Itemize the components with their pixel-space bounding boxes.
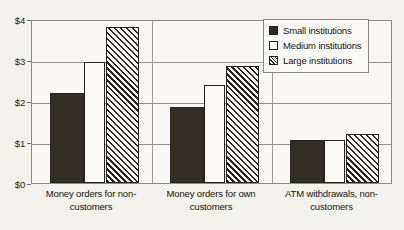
diagonal-hatch-swatch-icon	[269, 56, 278, 65]
bar-medium-group-2	[204, 85, 225, 183]
legend-label-small: Small institutions	[283, 25, 352, 36]
x-category-1-line1: Money orders for non-	[31, 188, 151, 201]
legend-item-small: Small institutions	[269, 23, 361, 38]
legend-item-medium: Medium institutions	[269, 38, 361, 53]
bar-small-group-2	[170, 107, 204, 183]
legend-label-medium: Medium institutions	[283, 40, 361, 51]
plot-area: Small institutions Medium institutions L…	[31, 20, 392, 184]
y-tick-label-2: $2	[15, 97, 25, 108]
x-category-3-line1: ATM withdrawals, non-	[271, 188, 392, 201]
bar-small-group-3	[290, 140, 324, 183]
x-category-2-line1: Money orders for own	[151, 188, 271, 201]
y-tick-label-4: $4	[15, 15, 25, 26]
bar-small-group-1	[50, 93, 84, 183]
x-category-2-line2: customers	[151, 201, 271, 214]
solid-dark-swatch-icon	[269, 26, 278, 35]
chart-legend: Small institutions Medium institutions L…	[263, 19, 369, 73]
bar-medium-group-3	[324, 140, 345, 183]
legend-item-large: Large institutions	[269, 53, 361, 68]
y-tick-mark-0	[27, 184, 31, 185]
white-outline-swatch-icon	[269, 41, 278, 50]
y-tick-label-1: $1	[15, 138, 25, 149]
x-category-1-line2: customers	[31, 201, 151, 214]
x-category-3: ATM withdrawals, non- customers	[271, 188, 392, 213]
y-axis: $4 $3 $2 $1 $0	[0, 0, 31, 230]
bar-chart: $4 $3 $2 $1 $0	[0, 0, 404, 230]
bar-medium-group-1	[84, 62, 105, 183]
x-category-3-line2: customers	[271, 201, 392, 214]
x-category-2: Money orders for own customers	[151, 188, 271, 213]
bar-large-group-1	[106, 27, 139, 183]
legend-label-large: Large institutions	[283, 55, 352, 66]
group-separator-1	[152, 21, 153, 183]
x-category-1: Money orders for non- customers	[31, 188, 151, 213]
y-tick-label-0: $0	[15, 179, 25, 190]
y-tick-label-3: $3	[15, 56, 25, 67]
bar-large-group-2	[226, 66, 259, 183]
bar-large-group-3	[346, 134, 379, 183]
x-axis: Money orders for non- customers Money or…	[31, 188, 392, 228]
